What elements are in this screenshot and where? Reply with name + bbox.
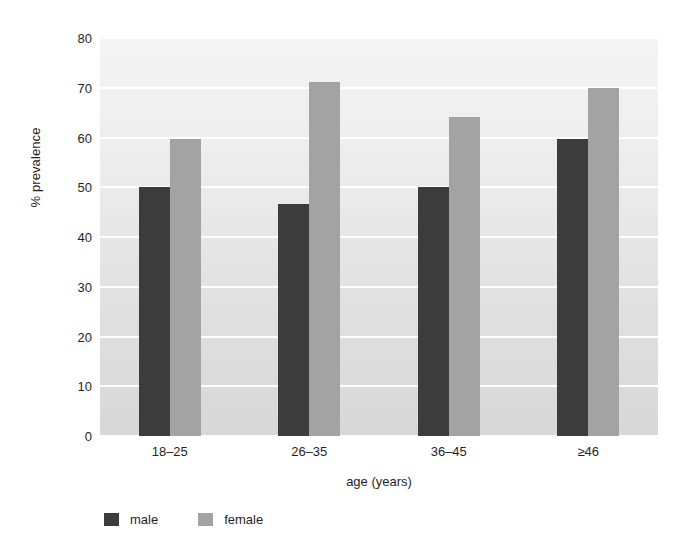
legend-item-female: female [198, 512, 263, 527]
x-axis-tick-labels: 18–2526–3536–45≥46 [100, 444, 658, 466]
y-tick-label: 30 [78, 279, 92, 294]
bar-female-≥46 [588, 88, 619, 436]
bar-group [519, 38, 659, 436]
bars-layer [100, 38, 658, 436]
x-tick-label: 18–25 [152, 444, 188, 459]
legend: malefemale [104, 512, 263, 527]
y-tick-label: 10 [78, 379, 92, 394]
x-tick-label: 36–45 [431, 444, 467, 459]
bar-group [379, 38, 519, 436]
y-tick-label: 50 [78, 180, 92, 195]
bar-group [240, 38, 380, 436]
bar-male-36–45 [418, 187, 449, 436]
y-tick-label: 60 [78, 130, 92, 145]
bar-male-18–25 [139, 187, 170, 436]
y-axis-tick-labels: 01020304050607080 [52, 38, 92, 436]
legend-label-male: male [130, 512, 158, 527]
plot-area [100, 38, 658, 436]
bar-male-≥46 [557, 139, 588, 437]
legend-swatch-male [104, 513, 119, 526]
y-axis-title: % prevalence [28, 88, 43, 248]
x-tick-label: ≥46 [577, 444, 599, 459]
y-tick-label: 80 [78, 31, 92, 46]
y-tick-label: 20 [78, 329, 92, 344]
x-axis-title: age (years) [100, 474, 658, 489]
legend-item-male: male [104, 512, 158, 527]
bar-chart: % prevalence 01020304050607080 18–2526–3… [0, 0, 683, 555]
legend-swatch-female [198, 513, 213, 526]
legend-label-female: female [224, 512, 263, 527]
bar-female-26–35 [309, 82, 340, 436]
bar-female-36–45 [449, 117, 480, 436]
x-tick-label: 26–35 [291, 444, 327, 459]
y-tick-label: 0 [85, 429, 92, 444]
y-tick-label: 40 [78, 230, 92, 245]
bar-male-26–35 [278, 204, 309, 436]
bar-group [100, 38, 240, 436]
y-tick-label: 70 [78, 80, 92, 95]
bar-female-18–25 [170, 139, 201, 437]
